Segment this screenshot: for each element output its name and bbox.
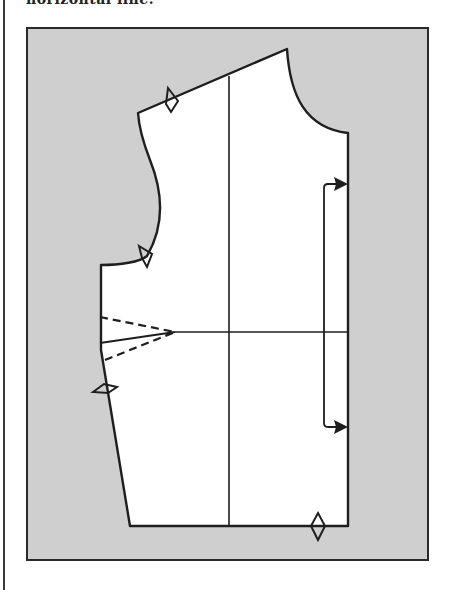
pattern-piece-outline (101, 49, 348, 526)
pattern-drawing (0, 0, 449, 590)
